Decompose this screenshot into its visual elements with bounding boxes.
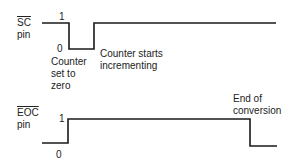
annotation-end-of-conversion-2: conversion [233,105,281,116]
eoc-level-low: 0 [56,149,62,160]
sc-signal-name: SC [17,17,31,28]
eoc-level-high: 1 [59,113,65,124]
annotation-end-of-conversion-1: End of [233,93,262,104]
annotation-counter-starts-2: incrementing [100,60,157,71]
annotation-counter-set-zero-2: set to [51,68,75,79]
annotation-counter-set-zero-1: Counter [51,56,87,67]
sc-pin-label: pin [17,29,30,40]
sc-waveform [42,23,276,49]
annotation-counter-starts-1: Counter starts [100,48,163,59]
eoc-waveform [42,119,277,146]
eoc-signal-name: EOC [17,107,39,118]
sc-level-low: 0 [57,43,63,54]
sc-level-high: 1 [59,11,65,22]
waveforms [0,0,295,164]
annotation-counter-set-zero-3: zero [51,80,70,91]
eoc-pin-label: pin [17,119,30,130]
